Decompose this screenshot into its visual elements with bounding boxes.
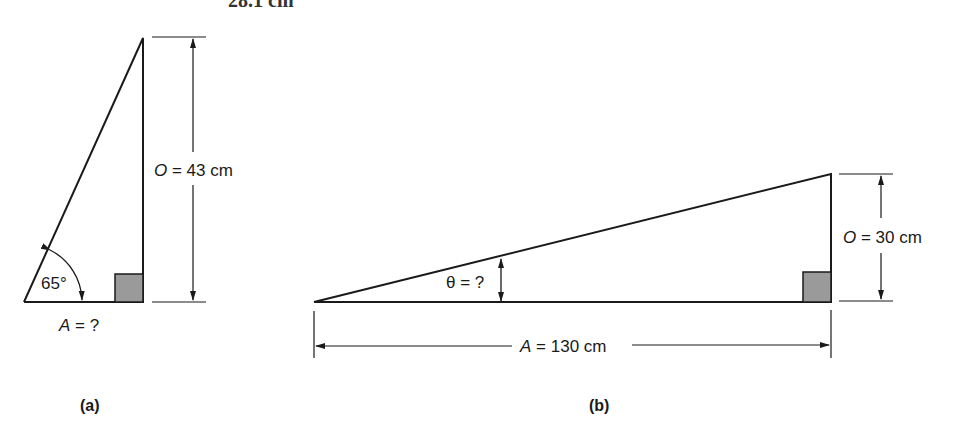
adjacent-label-a: A = ?: [58, 316, 99, 335]
diagram-canvas: 28.1 cm 65° O = 43 cm A = ? (a) θ = ? O …: [0, 0, 954, 446]
right-angle-marker-b: [803, 272, 831, 302]
triangle-b: θ = ? O = 30 cm A = 130 cm (b): [314, 174, 922, 414]
triangle-a-outline: [24, 38, 143, 302]
opposite-label-a: O = 43 cm: [154, 161, 233, 180]
angle-label-b: θ = ?: [446, 273, 484, 292]
right-angle-marker-a: [115, 274, 143, 302]
adjacent-label-b: A = 130 cm: [519, 337, 606, 356]
caption-b: (b): [589, 397, 609, 414]
opposite-label-b: O = 30 cm: [843, 228, 922, 247]
caption-a: (a): [80, 397, 100, 414]
angle-label-a: 65°: [41, 274, 67, 293]
top-cropped-text: 28.1 cm: [228, 0, 294, 11]
triangle-b-outline: [314, 174, 831, 302]
triangle-a: 65° O = 43 cm A = ? (a): [24, 37, 233, 414]
